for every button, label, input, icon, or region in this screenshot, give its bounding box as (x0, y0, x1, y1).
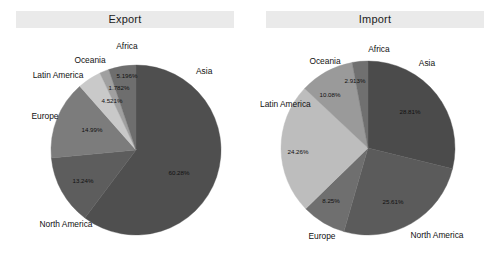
export-pie-wrap: 60.28%13.24%14.99%4.521%1.782%5.196% Asi… (0, 0, 249, 260)
export-category-africa: Africa (116, 41, 138, 51)
export-percent-europe: 14.99% (82, 126, 103, 133)
export-percent-oceania: 1.782% (109, 84, 130, 91)
import-percent-europe: 8.25% (322, 197, 340, 204)
export-category-latin-america: Latin America (33, 70, 84, 80)
import-pie-svg: 28.81%25.61%8.25%24.26%10.08%2.913% Asia… (250, 0, 499, 260)
panel-import: Import 28.81%25.61%8.25%24.26%10.08%2.91… (250, 0, 499, 260)
import-percent-latin-america: 24.26% (288, 148, 309, 155)
export-percent-africa: 5.196% (117, 72, 138, 79)
export-category-north-america: North America (39, 219, 92, 229)
pie-chart-figure: Export 60.28%13.24%14.99%4.521%1.782%5.1… (0, 0, 499, 260)
export-percent-asia: 60.28% (169, 169, 190, 176)
import-category-africa: Africa (368, 44, 390, 54)
import-category-north-america: North America (410, 230, 463, 240)
import-pie-wrap: 28.81%25.61%8.25%24.26%10.08%2.913% Asia… (250, 0, 499, 260)
export-pie-svg: 60.28%13.24%14.99%4.521%1.782%5.196% Asi… (0, 0, 249, 260)
export-percent-latin-america: 4.521% (102, 97, 123, 104)
import-percent-oceania: 10.08% (320, 91, 341, 98)
export-category-europe: Europe (31, 111, 58, 121)
export-category-asia: Asia (196, 66, 213, 76)
export-category-oceania: Oceania (74, 55, 106, 65)
import-category-latin-america: Latin America (260, 99, 311, 109)
import-category-oceania: Oceania (309, 56, 341, 66)
export-slice-group (51, 65, 221, 235)
import-category-europe: Europe (308, 231, 335, 241)
import-percent-north-america: 25.61% (383, 198, 404, 205)
import-category-asia: Asia (419, 58, 436, 68)
panel-export: Export 60.28%13.24%14.99%4.521%1.782%5.1… (0, 0, 249, 260)
import-percent-africa: 2.913% (345, 77, 366, 84)
export-percent-north-america: 13.24% (73, 177, 94, 184)
import-percent-asia: 28.81% (400, 108, 421, 115)
